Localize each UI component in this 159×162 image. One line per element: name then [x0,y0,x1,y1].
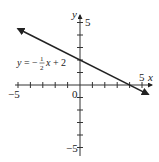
fraction-numerator: 1 [40,55,44,63]
y-min-label: −5 [66,142,78,154]
equation-suffix: x + 2 [45,57,66,68]
origin-label: 0 [72,88,78,100]
x-max-label: 5 [139,71,145,83]
equation-label: y = − 1 2 x + 2 [16,55,66,72]
x-axis-label: x [147,71,153,83]
y-max-label: 5 [85,16,91,28]
linear-function-graph: y 5 x 5 −5 0 −5 y = − 1 2 x + 2 [0,0,159,162]
fraction-denominator: 2 [40,64,44,72]
x-min-label: −5 [8,88,20,100]
y-axis-label: y [71,8,77,20]
equation-prefix: y = − [16,57,38,68]
